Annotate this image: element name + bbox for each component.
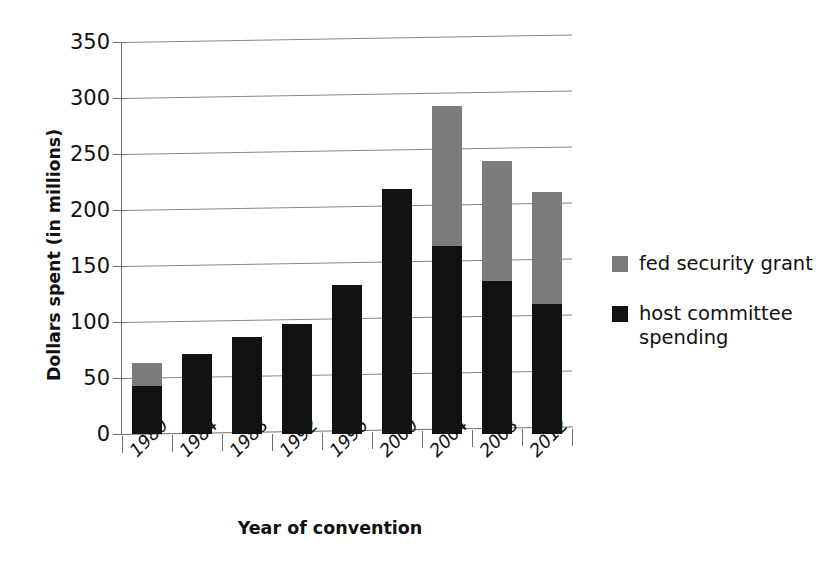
chart-figure: Dollars spent (in millions) 050100150200… xyxy=(0,0,827,574)
y-axis-tick-label: 350 xyxy=(70,32,110,53)
y-axis-tick-label: 150 xyxy=(70,256,110,277)
x-axis-tick-mark xyxy=(222,434,223,451)
gray-square-swatch xyxy=(612,256,628,272)
y-axis-tick-mark xyxy=(113,378,126,379)
bar-segment-fed-security-grant xyxy=(532,192,562,304)
bar-segment-fed-security-grant xyxy=(482,161,512,281)
x-axis-tick-mark xyxy=(522,429,523,446)
x-axis-tick-mark xyxy=(372,432,373,449)
bar-segment-fed-security-grant xyxy=(132,363,162,385)
y-axis-title: Dollars spent (in millions) xyxy=(44,95,64,415)
x-axis-tick-mark xyxy=(322,433,323,450)
bar-segment-fed-security-grant xyxy=(432,106,462,246)
y-axis-tick-mark xyxy=(113,154,126,155)
y-axis-tick-mark xyxy=(113,266,126,267)
y-axis-tick-mark xyxy=(113,434,126,435)
y-axis-tick-mark xyxy=(113,42,126,43)
gridline xyxy=(122,147,572,155)
x-axis-tick-mark xyxy=(572,429,573,446)
y-axis-tick-label: 200 xyxy=(70,200,110,221)
x-axis-title: Year of convention xyxy=(180,518,480,538)
x-axis-tick-mark xyxy=(122,436,123,453)
y-axis-line xyxy=(121,42,122,434)
y-axis-tick-mark xyxy=(113,210,126,211)
legend-item-host-committee-spending: host committee spending xyxy=(612,302,822,350)
gridline xyxy=(122,35,572,43)
bar-2012 xyxy=(532,192,562,434)
y-axis-tick-label: 50 xyxy=(83,368,110,389)
bar-segment-host-committee-spending xyxy=(432,246,462,434)
y-axis-tick-label: 250 xyxy=(70,144,110,165)
black-square-swatch xyxy=(612,306,628,322)
bar-segment-host-committee-spending xyxy=(382,189,412,434)
bar-2008 xyxy=(482,161,512,434)
y-axis-tick-mark xyxy=(113,322,126,323)
y-axis-tick-label: 100 xyxy=(70,312,110,333)
x-axis-tick-mark xyxy=(272,434,273,451)
bar-segment-host-committee-spending xyxy=(332,285,362,434)
bar-2000 xyxy=(382,189,412,434)
x-axis-tick-mark xyxy=(422,431,423,448)
bar-1996 xyxy=(332,285,362,434)
x-axis-tick-mark xyxy=(472,430,473,447)
y-axis-tick-mark xyxy=(113,98,126,99)
y-axis-tick-label: 0 xyxy=(97,424,110,445)
gridline xyxy=(122,91,572,99)
bar-2004 xyxy=(432,106,462,434)
legend-label-fed-security-grant: fed security grant xyxy=(639,252,813,276)
chart-legend: fed security grant host committee spendi… xyxy=(612,252,822,375)
y-axis-tick-label: 300 xyxy=(70,88,110,109)
legend-label-host-committee-spending: host committee spending xyxy=(639,302,793,350)
x-axis-tick-mark xyxy=(172,435,173,452)
plot-area: 050100150200250300350 xyxy=(122,42,572,434)
bar-segment-host-committee-spending xyxy=(482,281,512,434)
legend-item-fed-security-grant: fed security grant xyxy=(612,252,822,276)
